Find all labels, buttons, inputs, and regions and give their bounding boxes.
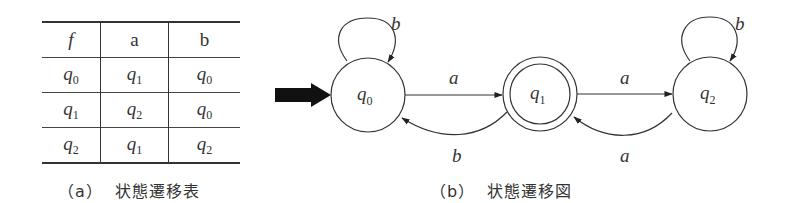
edge-q0-q1: a [405,67,502,95]
diagram-caption: （b） 状態遷移図 [430,178,572,202]
svg-text:q0: q0 [357,83,373,108]
svg-text:a: a [620,67,630,88]
edge-q2-q2: b [682,13,745,61]
svg-text:b: b [735,13,745,34]
edge-q2-q1: a [574,113,672,166]
state-q0: q0 [331,58,405,132]
svg-text:b: b [452,145,462,166]
svg-text:a: a [620,145,630,166]
state-diagram: q0 q1 q2 b a b a a b [0,0,790,203]
state-q2: q2 [673,57,747,131]
svg-text:a: a [449,67,459,88]
start-arrow-icon [275,83,331,107]
svg-text:q2: q2 [700,82,716,107]
state-q1-accepting: q1 [503,57,577,131]
svg-text:b: b [391,13,401,34]
edge-q1-q2: a [577,67,672,94]
edge-q0-q0: b [339,13,401,62]
edge-q1-q0: b [402,112,507,166]
svg-text:q1: q1 [530,82,546,107]
